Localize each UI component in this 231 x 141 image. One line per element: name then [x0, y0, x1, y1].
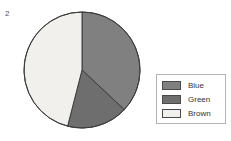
legend-label-brown: Brown [188, 109, 211, 118]
legend-item-brown: Brown [162, 107, 221, 119]
legend-item-blue: Blue [162, 79, 221, 91]
pie-chart-area [0, 0, 150, 141]
legend-label-green: Green [188, 95, 210, 104]
pie-chart-figure: 2 Blue Green Brown [0, 0, 231, 141]
legend-item-green: Green [162, 93, 221, 105]
chart-legend: Blue Green Brown [156, 74, 226, 124]
legend-swatch-brown-icon [162, 109, 181, 118]
pie-chart-svg [0, 0, 150, 141]
legend-swatch-blue-icon [162, 81, 181, 90]
legend-label-blue: Blue [188, 81, 204, 90]
legend-swatch-green-icon [162, 95, 181, 104]
